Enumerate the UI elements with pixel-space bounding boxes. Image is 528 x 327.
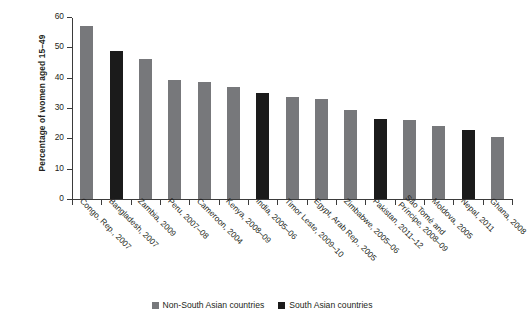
- bar: [344, 110, 357, 199]
- y-axis-tick-label: 10: [55, 163, 64, 173]
- y-axis-tick: 50: [67, 47, 72, 48]
- bar: [374, 119, 387, 199]
- legend-swatch-south-asian: [278, 302, 285, 309]
- y-axis-tick-label: 40: [55, 72, 64, 82]
- bar: [403, 120, 416, 199]
- legend-label: Non-South Asian countries: [163, 300, 265, 310]
- x-axis-label: Congo, Rep., 2007: [77, 197, 132, 252]
- bar: [139, 59, 152, 199]
- bars-layer: [72, 18, 512, 200]
- bar: [198, 82, 211, 199]
- y-axis-tick-label: 30: [55, 102, 64, 112]
- x-axis-label: Zimbabwe, 2005–06: [341, 197, 400, 256]
- legend-swatch-non-south-asian: [152, 302, 159, 309]
- legend-item: South Asian countries: [278, 300, 372, 310]
- bar: [110, 51, 123, 199]
- y-axis-tick: 20: [67, 138, 72, 139]
- bar: [491, 137, 504, 199]
- y-axis-tick: 10: [67, 169, 72, 170]
- chart-legend: Non-South Asian countriesSouth Asian cou…: [0, 300, 524, 310]
- y-axis-tick: 60: [67, 17, 72, 18]
- y-axis-tick-label: 60: [55, 11, 64, 21]
- x-axis-labels: Congo, Rep., 2007Bangladesh, 2007Zambia,…: [72, 200, 524, 295]
- bar: [80, 26, 93, 199]
- legend-label: South Asian countries: [289, 300, 372, 310]
- y-axis-tick: 40: [67, 78, 72, 79]
- bar: [256, 93, 269, 199]
- x-axis-label: Ghana, 2008: [488, 197, 528, 237]
- bar: [462, 130, 475, 199]
- bar: [286, 97, 299, 199]
- bar: [432, 126, 445, 199]
- bar: [315, 99, 328, 199]
- plot-area: 0102030405060: [72, 18, 512, 200]
- legend-item: Non-South Asian countries: [152, 300, 265, 310]
- y-axis-tick: 30: [67, 108, 72, 109]
- x-axis-label: Bangladesh, 2007: [107, 197, 160, 250]
- y-axis-tick-label: 0: [59, 193, 64, 203]
- y-axis-tick-label: 20: [55, 132, 64, 142]
- y-axis-tick-label: 50: [55, 41, 64, 51]
- y-axis-title: Percentage of women aged 15–49: [37, 8, 47, 198]
- bar: [168, 80, 181, 200]
- bar: [227, 87, 240, 199]
